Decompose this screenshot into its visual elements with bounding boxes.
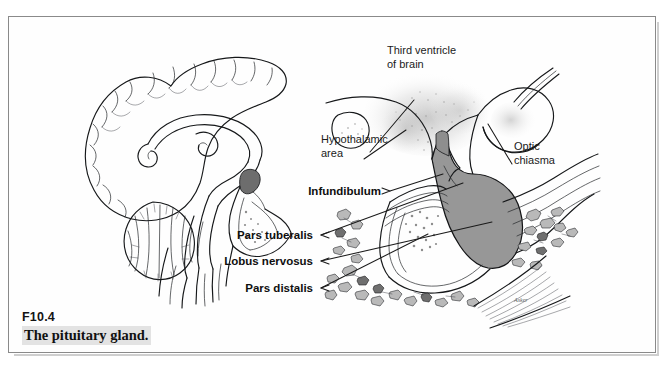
pars-distalis-stipple [405, 211, 439, 251]
brain-pituitary-grey [240, 169, 261, 194]
frame-shadow-right [657, 22, 659, 356]
leader-pars-distalis [321, 234, 428, 288]
label-third-ventricle-line2: of brain [387, 58, 424, 70]
label-optic-chiasma-line1: Optic [514, 140, 540, 152]
figure-caption-block: F10.4 The pituitary gland. [22, 310, 282, 345]
label-pars-tuberalis: Pars tuberalis [237, 229, 313, 241]
figure-caption-text: The pituitary gland. [24, 327, 148, 343]
figure-number: F10.4 [22, 310, 282, 325]
label-third-ventricle-line1: Third ventricle [387, 44, 456, 56]
artist-signature: Asker [513, 297, 528, 303]
caption-highlight: The pituitary gland. [22, 326, 151, 345]
arrowhead-lobus-nervosus [321, 258, 329, 264]
label-hypothalamic-line2: area [321, 147, 344, 159]
arrowhead-pars-tuberalis [321, 232, 329, 238]
arrowhead-infundibulum [382, 188, 390, 194]
label-lobus-nervosus: Lobus nervosus [224, 255, 313, 267]
frame-shadow-bottom [14, 354, 659, 356]
label-infundibulum: Infundibulum [308, 185, 381, 197]
figure-page: Asker [0, 0, 669, 370]
sagittal-brain-drawing [85, 57, 292, 308]
label-pars-distalis: Pars distalis [245, 282, 313, 294]
optic-chiasma-haze [491, 102, 535, 138]
label-hypothalamic-line1: Hypothalamic [321, 133, 388, 145]
pituitary-gland-diagram: Asker [8, 16, 656, 353]
pituitary-enlargement-drawing: Asker [325, 68, 600, 328]
label-optic-chiasma-line2: chiasma [514, 154, 556, 166]
